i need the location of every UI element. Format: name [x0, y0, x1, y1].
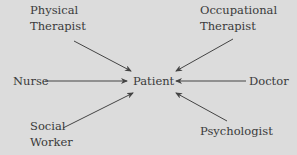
node-label-line: Occupational: [200, 2, 277, 18]
arrow-physical-therapist: [74, 41, 131, 71]
node-label-line: Nurse: [13, 73, 49, 89]
node-label-line: Worker: [30, 134, 73, 150]
arrow-occupational-therapist: [176, 39, 233, 71]
node-nurse: Nurse: [13, 73, 49, 89]
node-occupational-therapist: Occupational Therapist: [200, 2, 277, 34]
node-doctor: Doctor: [249, 73, 289, 89]
node-social-worker: Social Worker: [30, 118, 73, 150]
arrow-social-worker: [63, 93, 133, 128]
node-physical-therapist: Physical Therapist: [30, 2, 86, 34]
diagram-canvas: Physical Therapist Occupational Therapis…: [0, 0, 297, 155]
node-patient: Patient: [133, 73, 174, 89]
node-label-line: Psychologist: [200, 123, 273, 139]
node-label-line: Doctor: [249, 73, 289, 89]
node-label-line: Therapist: [200, 18, 277, 34]
node-label-line: Social: [30, 118, 73, 134]
node-psychologist: Psychologist: [200, 123, 273, 139]
node-label-line: Therapist: [30, 18, 86, 34]
node-label-line: Physical: [30, 2, 86, 18]
center-label: Patient: [133, 73, 174, 89]
arrow-psychologist: [176, 93, 227, 121]
